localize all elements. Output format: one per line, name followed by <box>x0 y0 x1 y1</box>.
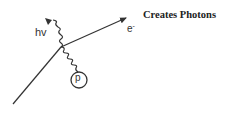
electron-arrow <box>61 18 126 47</box>
photon-wavy-arrow <box>53 20 63 47</box>
photon-arrowhead-icon <box>45 18 52 25</box>
diagram-title: Creates Photons <box>143 9 216 20</box>
electron-label: e- <box>127 22 135 34</box>
particle-p-label: p <box>75 72 81 83</box>
incoming-track-line <box>13 47 61 104</box>
photon-label: hv <box>35 26 47 38</box>
electron-charge: - <box>133 22 135 29</box>
exchange-wavy-line <box>61 47 78 72</box>
